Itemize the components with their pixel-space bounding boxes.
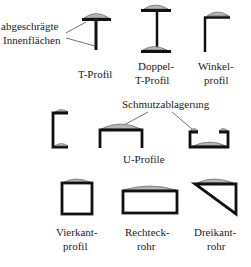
dirt-deposit	[143, 47, 167, 51]
dirt-deposit	[123, 186, 176, 190]
u-profile-upright-shape	[190, 129, 228, 148]
dirt-deposit	[144, 5, 168, 9]
rect-tube-shape	[123, 186, 177, 213]
angle-label-line1: Winkel-	[198, 60, 234, 72]
rect-tube-label-line2: rohr	[137, 240, 156, 252]
u-profiles-label: U-Profile	[123, 153, 165, 165]
tri-tube-label-line1: Dreikant-	[194, 226, 236, 238]
angle-profile-shape	[204, 12, 230, 52]
rect-tube-label-line1: Rechteck-	[125, 226, 170, 238]
profile-diagram: abgeschrägte Innenflächen T-Profil Doppe…	[0, 0, 251, 267]
u-profile-vertical-shape	[53, 110, 68, 148]
bevel-label-line2: Innenflächen	[3, 34, 61, 46]
square-profile-shape	[62, 179, 92, 214]
double-t-label-line2: T-Profil	[135, 74, 169, 86]
double-t-label-line1: Doppel-	[138, 60, 174, 72]
bevel-label-line1: abgeschrägte	[1, 20, 59, 32]
dirt-annotation: Schmutzablagerung	[122, 98, 210, 110]
dirt-deposit	[207, 12, 229, 16]
square-label-line1: Vierkant-	[56, 226, 98, 238]
dirt-deposit	[193, 142, 226, 146]
tri-tube-label-line2: rohr	[207, 240, 226, 252]
u-profile-inverted-shape	[100, 124, 142, 148]
t-profile-shape	[82, 14, 111, 51]
angle-label-line2: profil	[204, 74, 228, 86]
dirt-deposit	[84, 14, 109, 19]
t-profile-label: T-Profil	[78, 68, 112, 80]
dirt-deposit	[197, 179, 234, 183]
dirt-deposit	[55, 144, 68, 147]
square-label-line2: profil	[63, 240, 87, 252]
tri-tube-shape	[195, 179, 236, 214]
dirt-deposit	[101, 124, 141, 129]
bevel-leader-lines	[66, 22, 95, 46]
double-t-profile-shape	[141, 5, 171, 52]
